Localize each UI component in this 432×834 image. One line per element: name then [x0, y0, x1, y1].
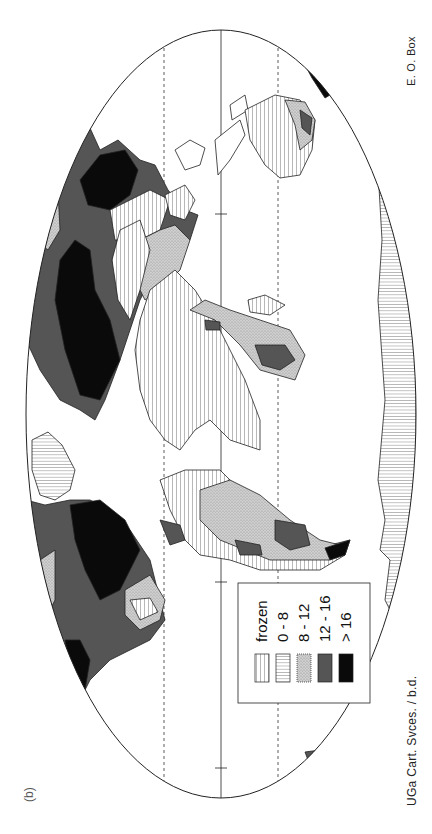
antarctica	[378, 165, 416, 625]
australia	[245, 95, 315, 178]
legend-swatch-12-16	[318, 654, 332, 682]
legend-label-8-12: 8 - 12	[295, 604, 312, 642]
world-map: frozen 0 - 8 8 - 12 12 - 16 > 16	[0, 0, 432, 834]
africa	[135, 270, 305, 450]
legend-swatch-frozen	[255, 654, 269, 682]
europe-islands	[175, 140, 205, 170]
legend-label-gt-16: > 16	[337, 612, 354, 642]
legend-label-frozen: frozen	[253, 600, 270, 642]
legend-label-0-8: 0 - 8	[274, 612, 291, 642]
south-america	[160, 470, 350, 570]
cartography-credit: UGa Cart. Svces. / b.d.	[405, 676, 419, 806]
greenland	[32, 432, 75, 500]
legend-label-12-16: 12 - 16	[316, 595, 333, 642]
legend-swatch-8-12	[297, 654, 311, 682]
author-credit: E. O. Box	[405, 36, 417, 86]
legend: frozen 0 - 8 8 - 12 12 - 16 > 16	[238, 583, 370, 703]
legend-swatch-0-8	[276, 654, 290, 682]
new-zealand	[305, 65, 330, 98]
small-island	[305, 750, 330, 760]
figure-label: (b)	[22, 787, 36, 802]
north-america	[26, 500, 165, 720]
legend-swatch-gt-16	[339, 654, 353, 682]
madagascar	[248, 295, 285, 315]
